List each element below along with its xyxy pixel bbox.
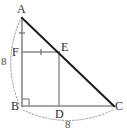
vertex-label-e: E bbox=[61, 41, 68, 53]
measure-label-bc: 8 bbox=[65, 119, 71, 130]
vertex-label-c: C bbox=[115, 100, 123, 112]
vertex-label-b: B bbox=[11, 100, 19, 112]
vertex-label-a: A bbox=[17, 3, 26, 15]
vertex-label-f: F bbox=[12, 46, 19, 58]
measure-arc-ab bbox=[11, 20, 20, 104]
geometry-figure: A B C D E F 8 8 bbox=[0, 0, 127, 132]
right-angle-mark-b bbox=[22, 99, 29, 106]
segment-hypotenuse-ac bbox=[22, 18, 114, 106]
vertex-label-d: D bbox=[55, 108, 64, 120]
measure-label-ab: 8 bbox=[1, 56, 7, 67]
